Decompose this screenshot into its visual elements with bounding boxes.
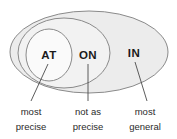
venn-diagram-svg: AT ON IN most precise not as precise mos… xyxy=(0,0,177,139)
caption-at-line1: most xyxy=(21,106,42,117)
caption-on-line2: precise xyxy=(73,121,104,132)
caption-on-line1: not as xyxy=(75,106,101,117)
region-label-in: IN xyxy=(128,47,140,59)
preposition-venn-diagram: AT ON IN most precise not as precise mos… xyxy=(0,0,177,139)
caption-in-line1: most xyxy=(135,106,156,117)
region-label-on: ON xyxy=(79,49,97,61)
region-label-at: AT xyxy=(41,49,56,61)
caption-in-line2: general xyxy=(129,121,161,132)
caption-at-line2: precise xyxy=(16,121,47,132)
